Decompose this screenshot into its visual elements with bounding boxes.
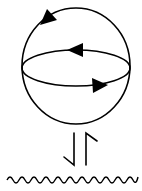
- top-arc-arrow-icon: [40, 9, 57, 25]
- sphere-outline: [22, 8, 130, 124]
- sphere: [22, 8, 130, 124]
- equilibrium-arrows-icon: [64, 133, 97, 165]
- equator-back-arrow-icon: [67, 43, 83, 57]
- wavy-interface-line: [7, 177, 138, 183]
- diagram-canvas: [0, 0, 142, 191]
- sphere-equator: [22, 50, 130, 86]
- down-half-arrow: [64, 133, 74, 165]
- equator-front-arrow-icon: [92, 78, 108, 93]
- up-half-arrow: [86, 133, 97, 165]
